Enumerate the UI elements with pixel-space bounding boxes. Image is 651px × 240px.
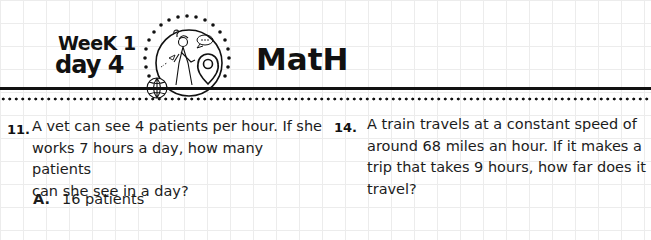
question-line: A train travels at a constant speed of [367, 114, 646, 136]
header-divider [0, 87, 651, 90]
question-line: works 7 hours a day, how many patients [32, 138, 325, 181]
question-number: 14. [334, 117, 357, 139]
question-number: 11. [7, 119, 30, 141]
dotted-divider [0, 97, 651, 101]
explorer-emblem-icon [135, 12, 240, 104]
choice-text: 16 patients [62, 191, 144, 206]
question-line: travel? [367, 179, 646, 201]
answer-choice-a[interactable]: A.16 patients [33, 189, 144, 206]
question-14: 14. A train travels at a constant speed … [325, 114, 651, 206]
choice-letter: A. [33, 191, 50, 206]
day-label: day 4 [55, 52, 123, 78]
question-text: A train travels at a constant speed of a… [367, 114, 646, 200]
question-11: 11. A vet can see 4 patients per hour. I… [0, 116, 325, 206]
question-line: trip that takes 9 hours, how far does it [367, 157, 646, 179]
question-line: around 68 miles an hour. If it makes a [367, 136, 646, 158]
week-label: WeeK 1 [58, 34, 136, 52]
page-header: WeeK 1 day 4 [0, 0, 651, 100]
question-line: A vet can see 4 patients per hour. If sh… [32, 116, 325, 138]
subject-title: MatH [256, 42, 349, 76]
